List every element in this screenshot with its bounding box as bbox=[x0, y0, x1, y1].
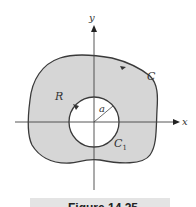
x-axis-label: x bbox=[182, 116, 188, 127]
outer-curve-label: C bbox=[147, 70, 156, 83]
radius-label: a bbox=[99, 103, 105, 114]
diagram-canvas: y x C R a C1 Figure 14.25 bbox=[0, 0, 196, 207]
y-axis-label: y bbox=[88, 12, 95, 23]
region-label: R bbox=[54, 90, 63, 103]
figure-caption: Figure 14.25 bbox=[68, 201, 138, 207]
y-axis-arrow-icon bbox=[91, 25, 97, 32]
x-axis-arrow-icon bbox=[173, 119, 180, 125]
inner-circle-subscript: 1 bbox=[122, 144, 126, 152]
